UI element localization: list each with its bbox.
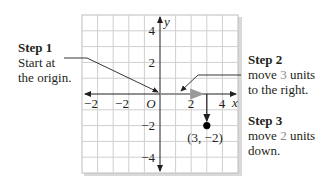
step2-units: units bbox=[287, 67, 316, 82]
step1-title: Step 1 bbox=[18, 40, 71, 55]
step3-move: move bbox=[248, 128, 280, 143]
point-label: (3, −2) bbox=[187, 130, 223, 145]
step2-text: Step 2 move 3 units to the right. bbox=[248, 52, 315, 97]
y-tick-label: 4 bbox=[149, 23, 156, 38]
x-axis-label: x bbox=[231, 95, 238, 110]
x-tick-label: 4 bbox=[219, 96, 226, 111]
step1-line1: Start at bbox=[18, 55, 55, 70]
y-tick-label: −2 bbox=[141, 118, 155, 133]
x-tick-label: −2 bbox=[84, 96, 98, 111]
step1-text: Step 1 Start at the origin. bbox=[18, 40, 71, 85]
step3-line2: down. bbox=[248, 143, 280, 158]
x-tick-label: −2 bbox=[115, 96, 129, 111]
y-tick-label: −4 bbox=[141, 150, 155, 165]
y-tick-label: 2 bbox=[149, 55, 156, 70]
origin-label: O bbox=[146, 96, 156, 111]
step2-title: Step 2 bbox=[248, 52, 315, 67]
step3-title: Step 3 bbox=[248, 113, 315, 128]
x-tick-label: 2 bbox=[188, 96, 195, 111]
step2-move: move bbox=[248, 67, 280, 82]
step2-line2: to the right. bbox=[248, 82, 308, 97]
step3-units: units bbox=[287, 128, 316, 143]
y-axis-label: y bbox=[162, 14, 170, 29]
step1-line2: the origin. bbox=[18, 70, 71, 85]
step3-text: Step 3 move 2 units down. bbox=[248, 113, 315, 158]
point-marker bbox=[203, 122, 210, 129]
